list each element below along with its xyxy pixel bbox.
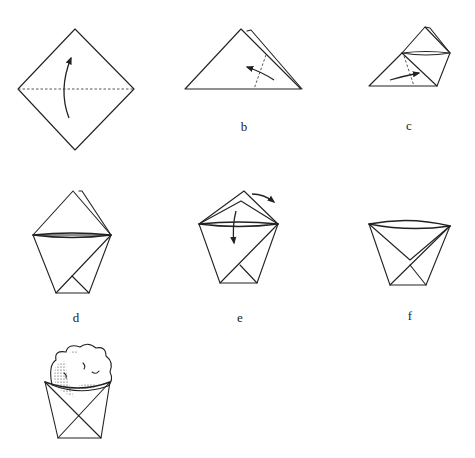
step-label: f: [408, 308, 413, 323]
cup-body: [199, 224, 278, 283]
back-flap: [79, 191, 111, 235]
step-label: b: [241, 119, 248, 134]
fold-left-arrow-icon: [247, 67, 274, 80]
step-e: e: [199, 191, 278, 325]
inner-fold: [240, 265, 257, 283]
cup-body: [369, 224, 450, 285]
fold-up-arrow-icon: [64, 58, 71, 118]
step-c: c: [369, 27, 450, 133]
cup-body: [33, 235, 111, 293]
cup-rim: [199, 222, 278, 227]
top-band: [402, 52, 450, 56]
back-flap: [199, 191, 278, 224]
step-filled-cup: [45, 344, 112, 438]
crease: [402, 53, 437, 86]
step-label: e: [237, 310, 243, 325]
fold-line: [404, 56, 414, 86]
triangle: [185, 29, 301, 89]
square-diamond: [18, 29, 134, 150]
fold-behind-arrow-icon: [252, 194, 274, 202]
back-layer: [247, 30, 302, 89]
inner-fold: [390, 226, 450, 285]
step-a: [18, 29, 134, 150]
step-b: b: [185, 29, 302, 134]
inner-fold: [72, 276, 89, 293]
inner-fold: [56, 235, 111, 293]
fold-right-arrow-icon: [390, 73, 419, 80]
step-label: c: [406, 118, 412, 133]
step-d: d: [33, 191, 111, 325]
step-label: d: [73, 310, 80, 325]
front-flap: [33, 191, 111, 235]
outline: [369, 27, 450, 86]
cup-rim: [369, 220, 450, 228]
origami-diagram: b c d e f: [0, 0, 475, 458]
inner-fold: [410, 265, 426, 285]
step-f: f: [369, 220, 450, 323]
